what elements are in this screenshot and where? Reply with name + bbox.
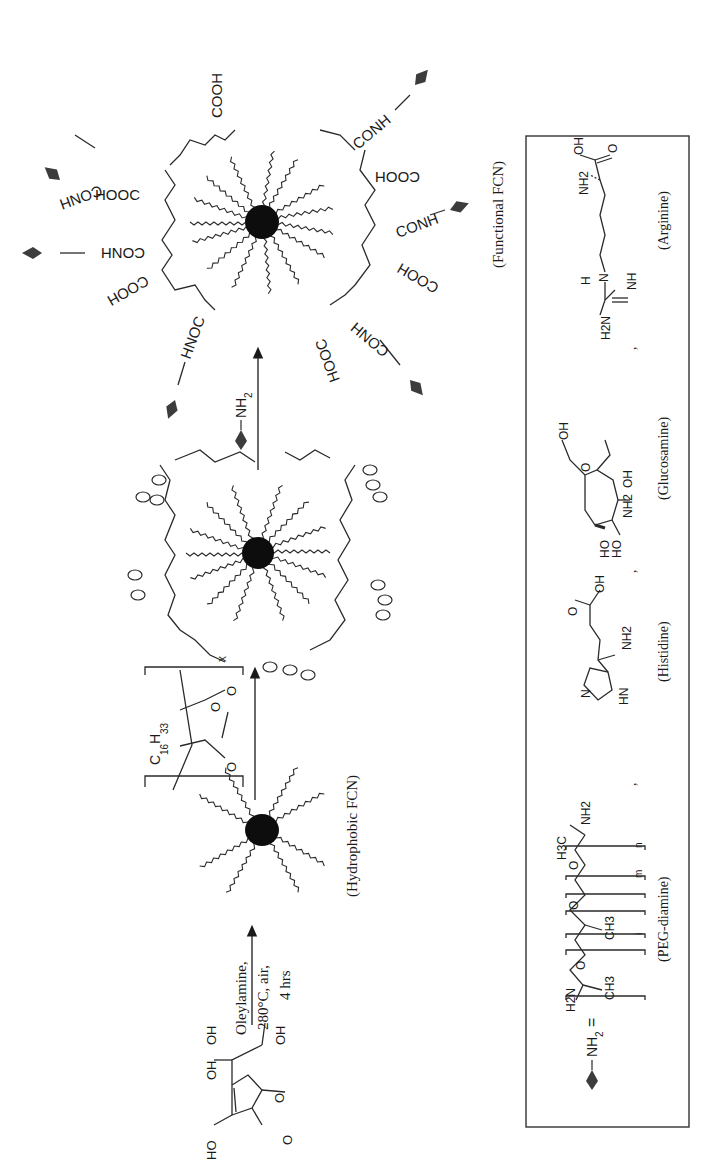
peg-h3c: H3C [555, 836, 569, 860]
step1-conditions-line1: Oleylamine, [233, 961, 249, 1035]
ligand-peg-diamine: H2N CH3 O CH3 O O H3C NH2 i m n (PEG-dia… [555, 801, 672, 1012]
group-hooc-2: HOOC [311, 337, 342, 385]
group-conh-3: CONH [349, 111, 394, 152]
anhydride-o-2: O [224, 686, 239, 696]
hydrophobic-fcn-particle [198, 766, 326, 894]
glc-oh-2: OH [621, 470, 635, 488]
ligand-legend: NH 2 = H2N CH3 O CH3 O O H [526, 136, 689, 1127]
anhydride-o-top: O [208, 702, 223, 712]
carbon-core [242, 537, 274, 569]
his-hn: HN [617, 688, 631, 705]
ligand-diamond-icon [448, 198, 471, 216]
ligand-diamond-icon [22, 247, 42, 259]
atom-o-ring: O [272, 1093, 287, 1103]
group-cooh-4: COOH [394, 260, 441, 297]
atom-ho-1: HO [204, 1141, 219, 1161]
legend-nh: NH [584, 1037, 600, 1057]
alkyl-h-index: 33 [159, 722, 170, 734]
step1-conditions-line3: 4 hrs [277, 970, 293, 1000]
arg-h: H [579, 276, 593, 285]
group-cooh-2: COOH [105, 272, 152, 309]
alkyl-c: C [147, 755, 163, 765]
arg-h2n: H2N [599, 316, 613, 340]
anhydride-o-1: O [224, 762, 239, 772]
glc-oh-1: OH [557, 422, 571, 440]
his-o: O [566, 607, 580, 616]
ligand-diamond-icon [163, 398, 181, 421]
arg-nh: NH [625, 273, 639, 290]
ligand-histidine: N HN O OH NH2 (Histidine) [566, 575, 672, 705]
amine-nh-index: 2 [243, 392, 254, 398]
his-oh: OH [593, 575, 607, 593]
alkyl-c-index: 16 [159, 743, 170, 755]
ligand-glucosamine: OH O HO HO NH2 OH (Glucosamine) [557, 416, 672, 558]
glucosamine-name: (Glucosamine) [656, 416, 672, 500]
arg-n: N [597, 273, 611, 282]
group-cooh-1: COOH [208, 73, 225, 118]
atom-oh-2: OH [204, 1026, 219, 1046]
peg-h2n: H2N [564, 988, 578, 1012]
group-hnoc-1: HNOC [177, 314, 208, 361]
peg-index-m: m [633, 870, 644, 878]
legend-nh-index: 2 [594, 1031, 605, 1037]
peg-ch3-2: CH3 [603, 916, 617, 940]
functional-fcn-particle [22, 66, 471, 421]
peg-index-n: n [633, 842, 644, 848]
his-n: N [579, 689, 593, 698]
amine-nh: NH [233, 398, 249, 418]
reaction-scheme-figure: HO OH OH OH O O Oleylamine, 280°C, air, … [0, 0, 722, 1168]
ascorbic-acid-structure: HO OH OH OH O O [204, 1023, 295, 1160]
carbon-core [245, 205, 279, 239]
group-conh-4: CONH [393, 210, 440, 241]
legend-separator-1: , [624, 783, 639, 787]
legend-equals: = [583, 1018, 600, 1027]
group-hooc-1: HOOC [95, 186, 140, 203]
group-conh-2: CONH [101, 245, 145, 262]
atom-o-carbonyl: O [280, 1135, 295, 1145]
legend-separator-2: , [624, 570, 639, 574]
ligand-arginine: H2N H N NH NH2 OH O (Arginine) [572, 137, 672, 340]
group-conh-5: CONH [347, 319, 392, 360]
glc-ho-2: HO [610, 540, 624, 558]
group-cooh-3: COOH [375, 169, 420, 186]
ligand-diamond-icon [586, 1070, 598, 1090]
arg-oh: OH [572, 137, 586, 155]
peg-index-i: i [633, 933, 644, 935]
his-nh2: NH2 [620, 626, 634, 650]
peg-o-3: O [567, 861, 581, 870]
ligand-diamond-icon [410, 66, 432, 89]
peg-o-1: O [574, 961, 588, 970]
carbon-core [245, 814, 279, 846]
atom-oh-1: OH [204, 1061, 219, 1081]
functional-fcn-label: (Functional FCN) [490, 161, 507, 268]
histidine-name: (Histidine) [656, 621, 672, 682]
glc-nh2: NH2 [621, 494, 635, 518]
atom-oh-3: OH [273, 1026, 288, 1046]
glc-o-ring: O [579, 463, 593, 472]
legend-separator-3: , [624, 347, 639, 351]
ligand-diamond-icon [235, 430, 247, 450]
polyanhydride-reagent: O O O C 16 H 33 x [145, 656, 243, 790]
peg-o-2: O [567, 901, 581, 910]
anhydride-groups [128, 465, 392, 680]
peg-diamine-name: (PEG-diamine) [656, 876, 672, 962]
step1-conditions-line2: 280°C, air, [255, 965, 271, 1030]
alkyl-h: H [147, 734, 163, 744]
arginine-name: (Arginine) [656, 191, 672, 250]
ligand-diamond-icon [405, 376, 427, 399]
arg-nh2: NH2 [577, 171, 591, 195]
arg-o: O [606, 144, 620, 153]
peg-nh2: NH2 [579, 801, 593, 825]
amine-reagent: NH 2 [233, 392, 254, 450]
ligand-diamond-icon [41, 163, 64, 185]
anhydride-fcn-particle [128, 450, 392, 680]
hydrophobic-fcn-label: (Hydrophobic FCN) [344, 775, 361, 897]
peg-ch3-1: CH3 [603, 976, 617, 1000]
